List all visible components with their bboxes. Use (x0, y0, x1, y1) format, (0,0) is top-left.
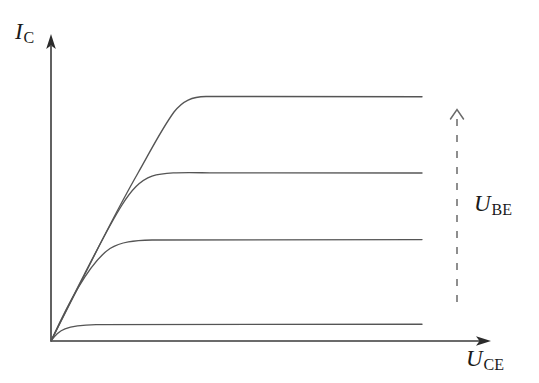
plot-canvas (0, 0, 539, 383)
y-axis-label: IC (15, 20, 34, 46)
ube-arrowhead (451, 110, 464, 120)
x-axis-label: UCE (466, 347, 504, 373)
characteristic-curve-figure: IC UCE UBE (0, 0, 539, 383)
curve-highest-ube (51, 96, 422, 341)
x-axis-subscript: CE (483, 356, 504, 373)
curve-low-ube (51, 240, 422, 341)
axes-group (46, 34, 491, 346)
curve-lowest-ube (51, 324, 422, 341)
y-axis-symbol: I (15, 19, 23, 44)
x-axis-symbol: U (466, 346, 483, 371)
ube-direction-arrow (451, 110, 464, 303)
y-axis-subscript: C (23, 29, 34, 46)
curves-group (51, 96, 422, 341)
ube-subscript: BE (491, 201, 512, 218)
ube-annotation-label: UBE (474, 192, 512, 218)
curve-high-ube (51, 173, 422, 341)
ube-symbol: U (474, 191, 491, 216)
